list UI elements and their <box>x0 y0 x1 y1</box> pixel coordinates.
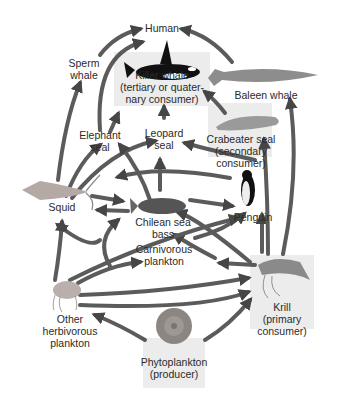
node-crabeater-seal: Crabeater seal (secondary consumer) <box>206 133 276 169</box>
node-penguin: Penguin <box>228 211 278 223</box>
krill-icon <box>258 259 310 298</box>
node-baleen-whale: Baleen whale <box>228 89 304 101</box>
node-other-herbivorous-plankton: Other herbivorous plankton <box>38 313 102 349</box>
node-elephant-seal: Elephant seal <box>72 129 128 153</box>
node-leopard-seal: Leopard seal <box>136 127 192 151</box>
node-phytoplankton: Phytoplankton (producer) <box>126 356 222 380</box>
crabeater-seal-icon <box>216 116 279 130</box>
baleen-whale-icon <box>208 69 318 86</box>
herbivorous-plankton-icon <box>53 281 81 312</box>
node-killer-whale: Killer whale (tertiary or quater- nary c… <box>110 69 214 105</box>
arrow-sperm-whale-to-human <box>100 29 140 55</box>
penguin-icon <box>241 170 255 206</box>
node-squid: Squid <box>44 201 80 213</box>
node-chilean-sea-bass: Chilean sea bass <box>130 216 196 240</box>
phytoplankton-icon <box>156 308 192 344</box>
arrow-baleen-to-human <box>182 29 232 62</box>
node-carnivorous-plankton: Carnivorous plankton <box>128 243 200 267</box>
node-krill: Krill (primary consumer) <box>250 301 314 337</box>
chilean-sea-bass-icon <box>130 198 186 214</box>
node-sperm-whale: Sperm whale <box>62 57 106 81</box>
node-human: Human <box>140 22 184 34</box>
